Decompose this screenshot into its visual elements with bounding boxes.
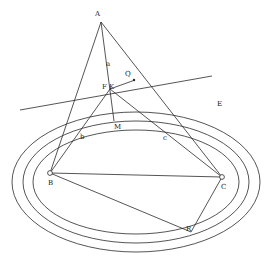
label-Q: Q: [125, 70, 131, 78]
ellipse-inner: [33, 130, 239, 234]
label-B: B: [48, 179, 53, 187]
line-c-KC: [110, 89, 222, 177]
label-F: F: [102, 83, 107, 91]
line-BR: [50, 173, 191, 232]
ellipse-middle: [23, 121, 249, 243]
label-E: E: [217, 100, 222, 108]
geometry-diagram: A a Q F K M b c E B C R: [0, 0, 270, 275]
line-b-KB: [50, 89, 110, 173]
line-BC: [50, 173, 222, 177]
label-C: C: [221, 183, 226, 191]
point-B-marker: [48, 171, 53, 176]
label-K: K: [109, 83, 115, 91]
label-b: b: [80, 133, 85, 141]
label-c: c: [163, 134, 167, 142]
tangent-line: [20, 76, 212, 110]
point-Q-marker: [133, 79, 135, 81]
line-AB: [50, 22, 101, 173]
label-A: A: [94, 10, 101, 18]
line-CR: [191, 177, 222, 232]
line-a-AM: [101, 22, 114, 121]
line-AC: [101, 22, 222, 177]
label-M: M: [114, 123, 121, 131]
point-C-marker: [220, 175, 225, 180]
label-R: R: [186, 225, 192, 233]
label-a: a: [106, 60, 110, 68]
diagram-svg: A a Q F K M b c E B C R: [0, 0, 270, 275]
